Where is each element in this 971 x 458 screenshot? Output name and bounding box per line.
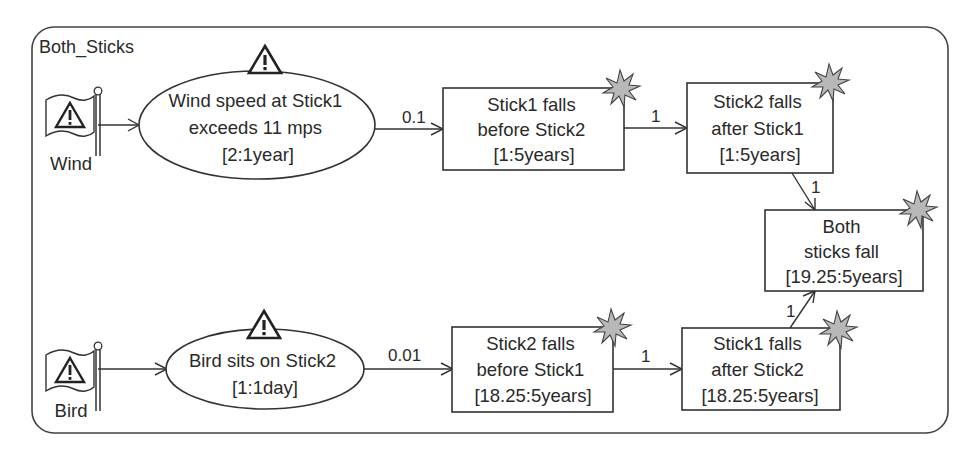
outcome-stick1-before-stick2[interactable]: Stick1 falls before Stick2 [1:5years] [443,70,640,170]
edge-wind-to-event[interactable] [98,119,139,131]
warning-flag-icon [46,87,102,156]
edge-label: 0.01 [388,346,421,365]
warning-triangle-icon [249,46,281,73]
container-title: Both_Sticks [39,37,134,58]
trigger-label: Wind [50,153,92,174]
diagram-canvas: Both_Sticks 0.1 1 1 [0,0,971,458]
edge-stick2-after-to-both[interactable]: 1 [792,173,820,210]
outcome-label: Stick1 falls after Stick2 [18.25:5years] [701,333,818,406]
outcome-label: Stick2 falls after Stick1 [1:5years] [711,91,809,165]
outcome-stick2-before-stick1[interactable]: Stick2 falls before Stick1 [18.25:5years… [452,309,631,412]
edge-wind-event-to-stick1-before[interactable]: 0.1 [374,108,443,135]
edge-stick2-before-to-stick1-after[interactable]: 1 [613,347,682,375]
edge-bird-to-event[interactable] [98,363,167,375]
outcome-stick2-after-stick1[interactable]: Stick2 falls after Stick1 [1:5years] [687,64,849,173]
edge-stick1-after-to-both[interactable]: 1 [786,291,815,328]
trigger-label: Bird [55,400,88,421]
edge-label: 1 [811,178,820,197]
outcome-both-sticks-fall[interactable]: Both sticks fall [19.25:5years] [765,191,937,291]
event-wind-speed[interactable]: Wind speed at Stick1 exceeds 11 mps [2:1… [139,46,375,179]
edge-label: 1 [641,347,650,366]
event-bird-sits[interactable]: Bird sits on Stick2 [1:1day] [166,311,364,409]
trigger-bird[interactable]: Bird [46,342,102,421]
edge-label: 1 [651,107,660,126]
warning-triangle-icon [248,311,280,338]
outcome-label: Stick2 falls before Stick1 [18.25:5years… [474,333,591,406]
edge-label: 1 [786,302,795,321]
outcome-stick1-after-stick2[interactable]: Stick1 falls after Stick2 [18.25:5years] [682,311,857,410]
outcome-label: Stick1 falls before Stick2 [1:5years] [477,94,590,165]
edge-stick1-before-to-stick2-after[interactable]: 1 [624,107,687,134]
trigger-wind[interactable]: Wind [46,87,102,174]
edge-label: 0.1 [402,108,426,127]
edge-bird-event-to-stick2-before[interactable]: 0.01 [364,346,453,375]
